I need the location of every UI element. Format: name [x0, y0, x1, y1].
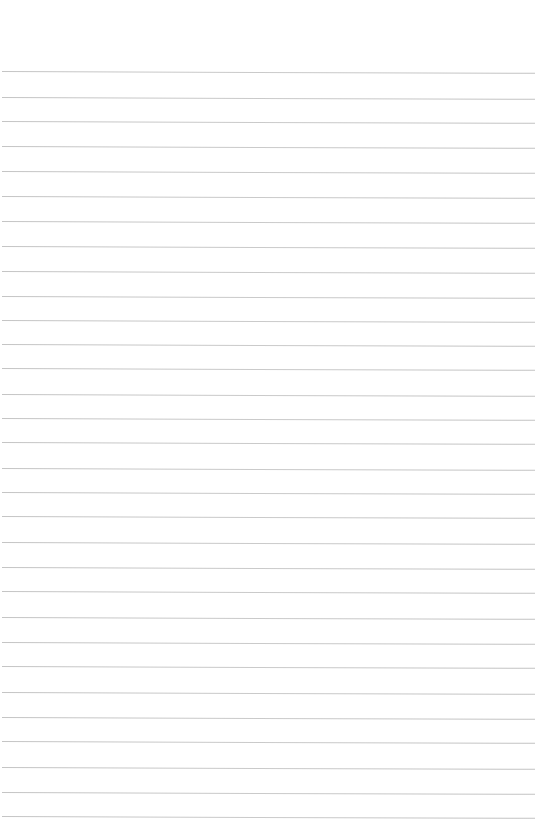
ruled-line — [2, 368, 535, 371]
ruled-line — [2, 816, 535, 819]
ruled-line — [2, 468, 535, 471]
ruled-line — [2, 741, 535, 744]
ruled-line — [2, 567, 535, 570]
ruled-line — [2, 344, 535, 347]
ruled-line — [2, 591, 535, 594]
ruled-line — [2, 121, 535, 124]
ruled-line — [2, 767, 535, 770]
ruled-line — [2, 666, 535, 669]
ruled-line — [2, 516, 535, 519]
ruled-line — [2, 296, 535, 299]
ruled-line — [2, 617, 535, 620]
ruled-line — [2, 320, 535, 323]
ruled-line — [2, 418, 535, 421]
ruled-line — [2, 642, 535, 645]
ruled-line — [2, 171, 535, 174]
ruled-line — [2, 692, 535, 695]
ruled-line — [2, 71, 535, 74]
ruled-line — [2, 271, 535, 274]
ruled-line — [2, 97, 535, 100]
ruled-line — [2, 492, 535, 495]
ruled-line — [2, 394, 535, 397]
ruled-line — [2, 442, 535, 445]
ruled-line — [2, 196, 535, 199]
lined-paper-page — [0, 0, 537, 835]
ruled-line — [2, 246, 535, 249]
ruled-line — [2, 542, 535, 545]
ruled-line — [2, 792, 535, 795]
ruled-line — [2, 221, 535, 224]
ruled-line — [2, 717, 535, 720]
ruled-line — [2, 146, 535, 149]
